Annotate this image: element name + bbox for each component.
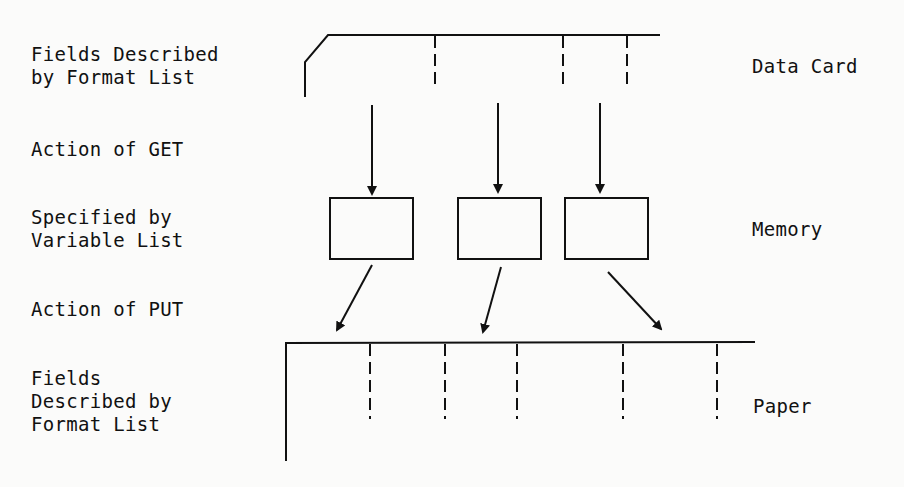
io-diagram (0, 0, 904, 487)
paper-shape (286, 342, 755, 461)
put-arrows (337, 265, 661, 332)
data-card-shape (305, 35, 660, 97)
get-arrows (372, 103, 600, 194)
memory-boxes (330, 198, 648, 259)
